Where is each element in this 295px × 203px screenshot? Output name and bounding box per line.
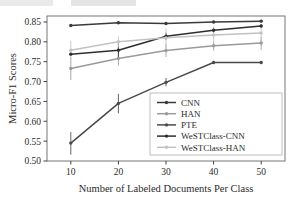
y-axis-tick-label: 0.60 — [24, 117, 41, 127]
data-point — [164, 36, 167, 39]
data-point — [212, 44, 215, 47]
data-point — [164, 49, 167, 52]
x-axis-title: Number of Labeled Documents Per Class — [79, 183, 254, 194]
data-point — [69, 52, 72, 55]
data-point — [69, 141, 72, 144]
data-point — [212, 61, 215, 64]
data-point — [260, 41, 263, 44]
y-axis-tick-label: 0.50 — [24, 156, 41, 166]
data-point — [117, 40, 120, 43]
x-axis-tick-label: 30 — [161, 167, 171, 177]
y-axis-tick-label: 0.80 — [24, 37, 41, 47]
data-point — [212, 29, 215, 32]
data-point — [117, 21, 120, 24]
x-axis-tick-label: 10 — [66, 167, 76, 177]
data-point — [212, 33, 215, 36]
data-point — [117, 48, 120, 51]
data-point — [164, 22, 167, 25]
y-axis-tick-label: 0.65 — [24, 97, 41, 107]
data-point — [69, 67, 72, 70]
data-point — [260, 19, 263, 22]
legend-label-cnn: CNN — [181, 98, 201, 108]
y-axis-tick-label: 0.75 — [24, 57, 41, 67]
y-axis-tick-label: 0.85 — [24, 17, 41, 27]
data-point — [260, 24, 263, 27]
y-axis-tick-label: 0.70 — [24, 77, 41, 87]
legend-marker — [165, 123, 168, 126]
data-point — [164, 81, 167, 84]
legend-label-westclass-han: WeSTClass-HAN — [181, 143, 246, 153]
data-point — [117, 57, 120, 60]
legend-marker — [165, 134, 168, 137]
data-point — [260, 61, 263, 64]
legend-marker — [165, 112, 168, 115]
x-axis-tick-label: 50 — [256, 167, 266, 177]
line-chart: 0.500.550.600.650.700.750.800.8510203040… — [0, 0, 295, 203]
legend-label-westclass-cnn: WeSTClass-CNN — [181, 131, 245, 141]
y-axis-tick-label: 0.55 — [24, 137, 41, 147]
x-axis-tick-label: 40 — [209, 167, 219, 177]
legend-marker — [165, 146, 168, 149]
x-axis-tick-label: 20 — [114, 167, 124, 177]
chart-figure: 0.500.550.600.650.700.750.800.8510203040… — [0, 0, 295, 203]
data-point — [260, 31, 263, 34]
data-point — [212, 20, 215, 23]
legend-label-pte: PTE — [181, 120, 198, 130]
y-axis-title: Micro-F1 Scores — [7, 53, 18, 124]
data-point — [69, 48, 72, 51]
data-point — [117, 102, 120, 105]
data-point — [69, 24, 72, 27]
scan-artifact — [0, 0, 295, 6]
legend-marker — [165, 101, 168, 104]
legend-label-han: HAN — [181, 109, 201, 119]
